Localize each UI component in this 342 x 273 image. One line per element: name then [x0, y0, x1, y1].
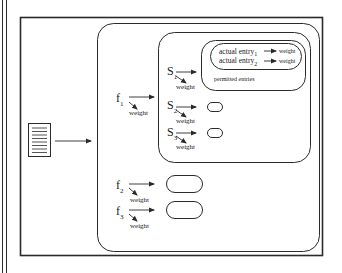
- svg-text:weight: weight: [176, 83, 195, 91]
- svg-text:S2: S2: [167, 98, 178, 115]
- svg-text:actual entry2: actual entry2: [219, 56, 257, 67]
- svg-text:S1: S1: [167, 64, 178, 81]
- feature-f1: f1 weight: [116, 91, 154, 117]
- document-icon: [29, 124, 51, 157]
- svg-text:f1: f1: [116, 91, 124, 108]
- slot-s3: S3 weight: [167, 125, 223, 151]
- slot-s2: S2 weight: [167, 98, 223, 125]
- svg-text:actual entry1: actual entry1: [219, 47, 257, 57]
- svg-text:weight: weight: [130, 222, 149, 230]
- permitted-entries-label: permitted entries: [214, 76, 255, 82]
- slot-s2-value-oval: [208, 103, 223, 112]
- feature-f2-value-oval: [167, 176, 203, 193]
- svg-text:f2: f2: [116, 178, 124, 195]
- svg-text:weight: weight: [279, 48, 296, 54]
- actual-entry-1: actual entry1 weight: [219, 47, 296, 57]
- svg-text:f3: f3: [116, 204, 124, 221]
- actual-entry-2: actual entry2 weight: [219, 56, 296, 67]
- diagram-canvas: actual entry1 weight actual entry2 weigh…: [0, 0, 342, 273]
- feature-f3-value-oval: [167, 202, 203, 219]
- svg-text:S3: S3: [167, 125, 178, 142]
- feature-f2: f2 weight: [116, 176, 203, 205]
- feature-f3: f3 weight: [116, 202, 203, 231]
- svg-text:weight: weight: [279, 58, 296, 64]
- svg-text:weight: weight: [129, 109, 148, 117]
- slot-s3-value-oval: [208, 129, 223, 138]
- svg-text:weight: weight: [130, 196, 149, 204]
- slot-s1: S1 weight: [167, 64, 196, 91]
- svg-text:weight: weight: [176, 117, 195, 125]
- svg-text:weight: weight: [176, 143, 195, 151]
